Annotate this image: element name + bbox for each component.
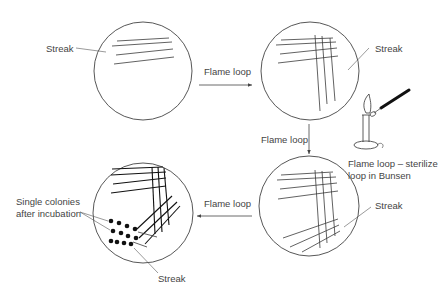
arrow-1-label: Flame loop bbox=[204, 66, 251, 77]
arrow-2-label: Flame loop bbox=[261, 134, 308, 145]
dish-3-streak-label: Streak bbox=[375, 200, 403, 211]
bunsen-burner-icon bbox=[354, 94, 383, 149]
dish-1-outline bbox=[94, 22, 192, 120]
dish-3-streaks bbox=[277, 170, 340, 252]
dish-2-streak-label: Streak bbox=[375, 43, 403, 54]
dish-4-streak-label: Streak bbox=[158, 273, 186, 284]
arrow-3-label: Flame loop bbox=[204, 198, 251, 209]
dish-2-streaks bbox=[276, 35, 338, 111]
colonies-label-line1: Single colonies bbox=[16, 196, 80, 207]
petri-dish-2: Streak bbox=[261, 22, 403, 120]
petri-dish-1: Streak bbox=[46, 22, 192, 120]
colonies-leader-1 bbox=[80, 212, 108, 221]
dish-4-outline bbox=[93, 163, 193, 263]
streak-plate-diagram: Streak Flame loop Streak bbox=[0, 0, 445, 291]
dish-3-streak-leader bbox=[344, 207, 371, 227]
arrow-dish2-to-dish3: Flame loop bbox=[261, 124, 309, 154]
petri-dish-4: Single colonies after incubation Streak bbox=[16, 163, 193, 284]
inoculating-loop-icon bbox=[369, 90, 409, 117]
dish-3-outline bbox=[259, 156, 359, 256]
dish-1-streak-label: Streak bbox=[46, 43, 74, 54]
bunsen-caption-line1: Flame loop – sterilize bbox=[348, 158, 438, 169]
bunsen-caption-line2: loop in Bunsen bbox=[348, 170, 411, 181]
arrow-dish1-to-dish2: Flame loop bbox=[199, 66, 252, 85]
colonies-label-line2: after incubation bbox=[16, 208, 81, 219]
dish-2-outline bbox=[261, 22, 359, 120]
dish-1-streaks bbox=[112, 38, 174, 64]
arrow-dish3-to-dish4: Flame loop bbox=[197, 198, 252, 216]
flame-icon bbox=[364, 94, 371, 113]
dish-4-streak-leader bbox=[134, 248, 158, 273]
dish-1-streak-leader bbox=[76, 48, 106, 52]
